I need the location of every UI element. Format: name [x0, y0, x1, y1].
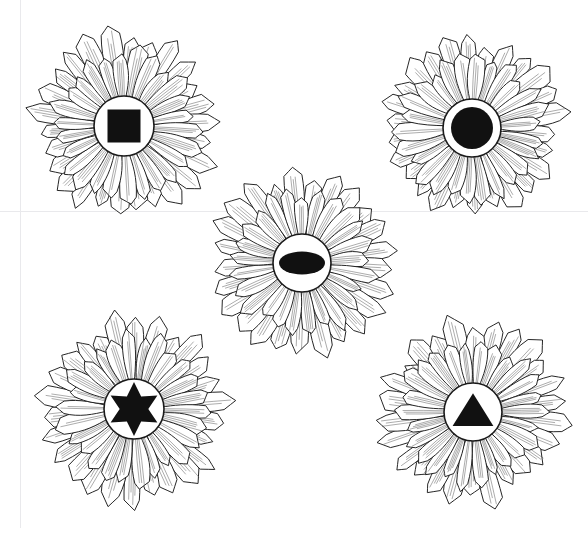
flower-top-right: Sunflower with black circle center [382, 35, 571, 214]
sunflower-artboard: Sunflower with black square centerSunflo… [0, 0, 588, 535]
flower-bottom-right: Sunflower with black triangle center [376, 315, 572, 509]
flower-center: Sunflower with black horizontal ellipse … [213, 167, 397, 358]
flower-bottom-left: Sunflower with black six-pointed star ce… [34, 310, 235, 510]
center-shape-circle [451, 107, 493, 149]
center-shape-square [108, 110, 141, 143]
artwork-canvas: Sunflower with black square centerSunflo… [0, 0, 588, 535]
center-shape-ellipse [279, 252, 325, 275]
flower-top-left: Sunflower with black square center [26, 26, 220, 214]
